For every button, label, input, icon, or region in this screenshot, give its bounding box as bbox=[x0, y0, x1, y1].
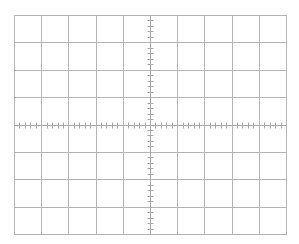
oscilloscope-graticule bbox=[0, 0, 299, 244]
